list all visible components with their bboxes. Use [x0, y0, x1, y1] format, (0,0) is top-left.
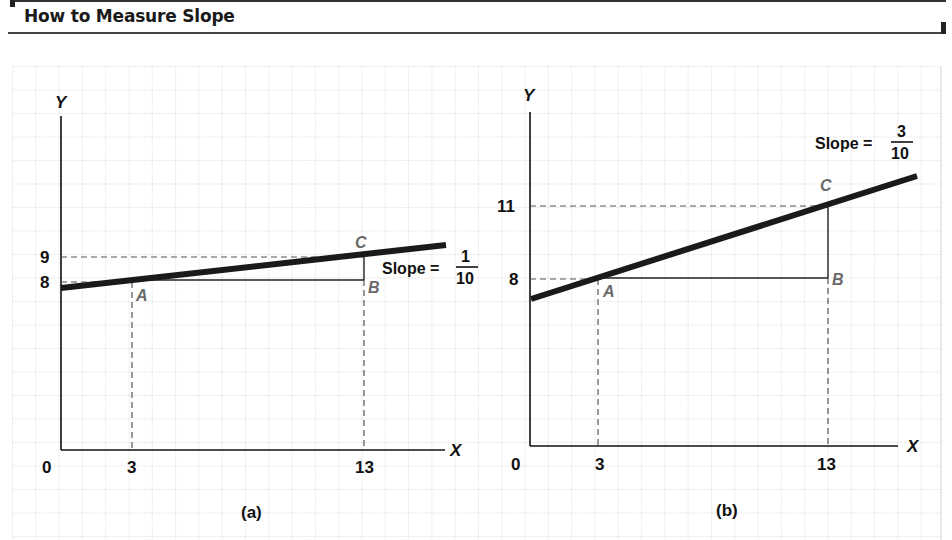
- point-a-label: A: [602, 283, 615, 300]
- x-tick-13: 13: [355, 458, 374, 477]
- origin-label: 0: [511, 455, 520, 474]
- y-tick-11: 11: [497, 197, 515, 216]
- x-tick-13: 13: [817, 455, 836, 474]
- y-axis-label: Y: [55, 93, 68, 112]
- slope-numerator: 1: [461, 248, 470, 265]
- y-tick-9: 9: [40, 248, 49, 267]
- y-tick-8: 8: [40, 273, 49, 292]
- slope-annotation: Slope =: [382, 260, 439, 277]
- point-c-label: C: [355, 234, 367, 251]
- y-axis-label: Y: [523, 86, 536, 105]
- point-a-label: A: [135, 287, 148, 304]
- point-b-label: B: [832, 271, 844, 288]
- slope-denominator: 10: [456, 270, 474, 287]
- point-b-label: B: [368, 279, 380, 296]
- x-axis-label: X: [906, 437, 920, 456]
- x-tick-3: 3: [127, 458, 136, 477]
- graph-paper-grid: [12, 66, 942, 540]
- origin-label: 0: [42, 458, 51, 477]
- point-c-label: C: [820, 177, 832, 194]
- slope-figure: Y X 0 3 13 9 8 A B C Slope = 1 10 (a) Y …: [0, 0, 952, 540]
- x-axis-label: X: [449, 441, 463, 460]
- panel-caption: (a): [241, 503, 262, 522]
- panel-caption: (b): [716, 501, 738, 520]
- y-tick-8: 8: [509, 270, 518, 289]
- slope-denominator: 10: [891, 145, 909, 162]
- slope-numerator: 3: [897, 123, 906, 140]
- x-tick-3: 3: [595, 455, 604, 474]
- slope-annotation: Slope =: [815, 135, 872, 152]
